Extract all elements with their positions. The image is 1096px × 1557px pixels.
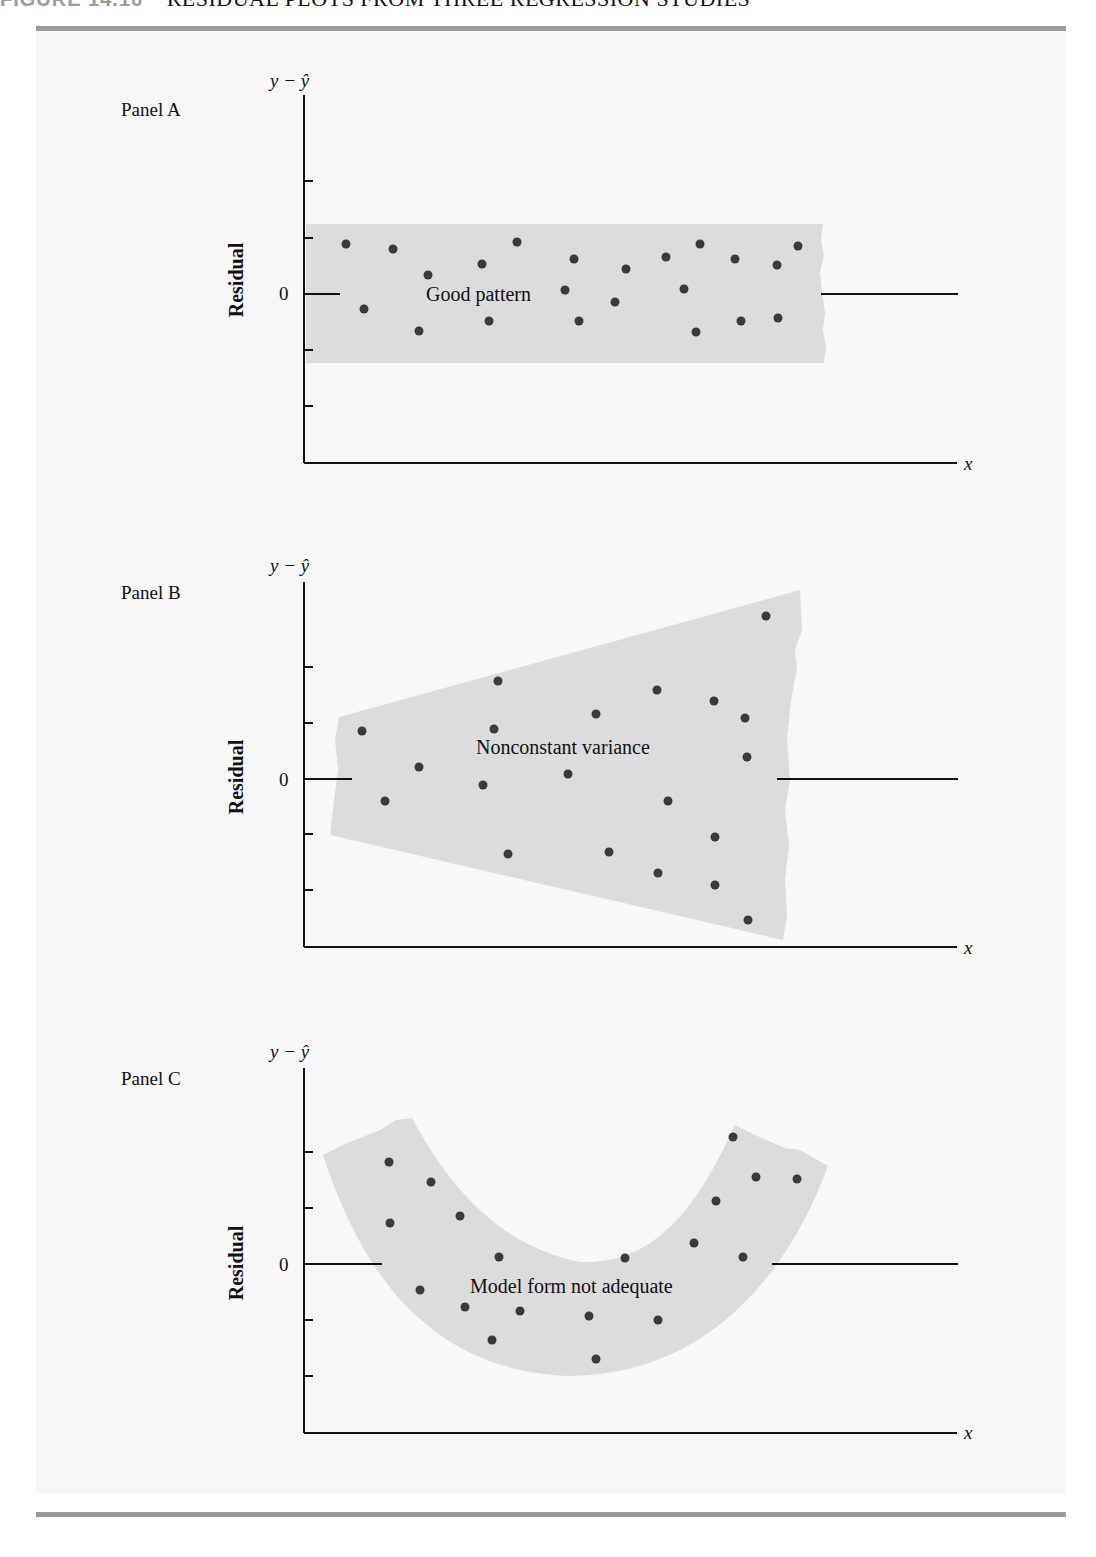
panel-c-zero-label: 0 (279, 1254, 289, 1275)
panel-b-title: Panel B (121, 582, 181, 603)
panel-b-band (330, 590, 802, 940)
data-point (358, 727, 367, 736)
data-point (621, 1254, 630, 1263)
data-point (654, 1316, 663, 1325)
data-point (516, 1307, 525, 1316)
panel-b-residual-label: Residual (225, 739, 247, 814)
data-point (485, 317, 494, 326)
data-point (654, 869, 663, 878)
data-point (743, 753, 752, 762)
data-point (570, 255, 579, 264)
data-point (415, 327, 424, 336)
panel-b-x-label: x (963, 937, 973, 958)
data-point (793, 1175, 802, 1184)
data-point (653, 686, 662, 695)
data-point (692, 328, 701, 337)
data-point (381, 797, 390, 806)
data-point (360, 305, 369, 314)
data-point (741, 714, 750, 723)
data-point (711, 881, 720, 890)
data-point (424, 271, 433, 280)
data-point (342, 240, 351, 249)
panel-b-zero-label: 0 (279, 769, 289, 790)
data-point (561, 286, 570, 295)
data-point (794, 242, 803, 251)
panel-b-annotation: Nonconstant variance (476, 736, 650, 758)
data-point (731, 255, 740, 264)
data-point (478, 260, 487, 269)
data-point (744, 916, 753, 925)
data-point (662, 253, 671, 262)
data-point (461, 1303, 470, 1312)
panel-c-y-label: y − ŷ (268, 1041, 310, 1062)
data-point (479, 781, 488, 790)
panel-a-zero-label: 0 (279, 283, 289, 304)
data-point (712, 1197, 721, 1206)
data-point (611, 298, 620, 307)
data-point (575, 317, 584, 326)
panel-a-x-label: x (963, 453, 973, 474)
data-point (711, 833, 720, 842)
data-point (504, 850, 513, 859)
data-point (592, 1355, 601, 1364)
data-point (386, 1219, 395, 1228)
data-point (622, 265, 631, 274)
data-point (385, 1158, 394, 1167)
panel-a-y-label: y − ŷ (268, 70, 310, 91)
panel-a-residual-label: Residual (225, 242, 247, 317)
panel-c-annotation: Model form not adequate (470, 1275, 673, 1298)
data-point (774, 314, 783, 323)
residual-plots: Panel A y − ŷ 0 Residual x Good pattern … (0, 0, 1096, 1557)
data-point (739, 1253, 748, 1262)
panel-a-annotation: Good pattern (426, 283, 531, 306)
panel-a-title: Panel A (121, 99, 181, 120)
data-point (773, 261, 782, 270)
data-point (585, 1312, 594, 1321)
panel-c-title: Panel C (121, 1068, 181, 1089)
panel-c-band (323, 1118, 828, 1376)
data-point (389, 245, 398, 254)
data-point (488, 1336, 497, 1345)
data-point (762, 612, 771, 621)
data-point (564, 770, 573, 779)
data-point (427, 1178, 436, 1187)
data-point (664, 797, 673, 806)
panel-c-residual-label: Residual (225, 1225, 247, 1300)
data-point (680, 285, 689, 294)
data-point (605, 848, 614, 857)
data-point (456, 1212, 465, 1221)
data-point (690, 1239, 699, 1248)
data-point (415, 763, 424, 772)
data-point (513, 238, 522, 247)
data-point (495, 1253, 504, 1262)
panel-a: Panel A y − ŷ 0 Residual x Good pattern (121, 70, 973, 474)
panel-b-y-label: y − ŷ (268, 555, 310, 576)
data-point (752, 1173, 761, 1182)
data-point (494, 677, 503, 686)
panel-c: Panel C y − ŷ 0 Residual x Model form no… (121, 1041, 973, 1443)
data-point (696, 240, 705, 249)
data-point (490, 725, 499, 734)
data-point (592, 710, 601, 719)
data-point (737, 317, 746, 326)
panel-b: Panel B y − ŷ 0 Residual x Nonconstant v… (121, 555, 973, 958)
data-point (729, 1133, 738, 1142)
data-point (710, 697, 719, 706)
data-point (416, 1286, 425, 1295)
panel-c-x-label: x (963, 1422, 973, 1443)
